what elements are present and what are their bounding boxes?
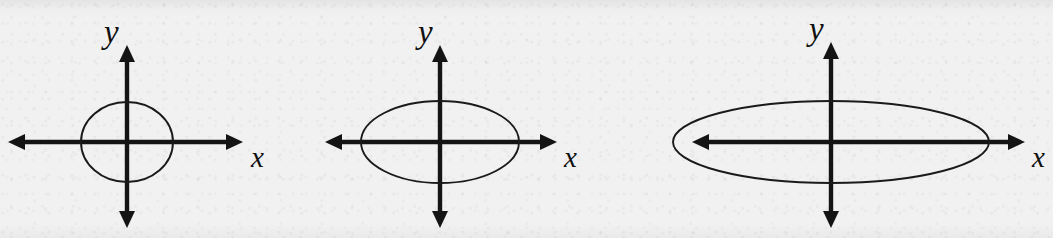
y-axis-bottom-arrowhead-1: [119, 211, 135, 228]
figure-2-canvas: [300, 0, 600, 238]
figure-1-canvas: [0, 0, 300, 238]
x-axis-right-arrowhead-2: [540, 134, 557, 150]
figure-3-canvas: [600, 0, 1053, 238]
y-axis-top-arrowhead-3: [823, 42, 839, 59]
x-axis-label-2: x: [564, 143, 577, 172]
y-axis-2: [432, 45, 448, 228]
y-axis-1: [119, 45, 135, 228]
x-axis-left-arrowhead-2: [325, 134, 342, 150]
x-axis-label-1: x: [251, 143, 264, 172]
y-axis-bottom-arrowhead-2: [432, 211, 448, 228]
y-axis-bottom-arrowhead-3: [823, 211, 839, 228]
y-axis-3: [823, 42, 839, 228]
ellipse-diagram-1: y x: [0, 0, 300, 238]
x-axis-right-arrowhead-3: [1008, 134, 1025, 150]
y-axis-top-arrowhead-2: [432, 45, 448, 62]
ellipse-diagram-3: y x: [600, 0, 1053, 238]
figure-page: y x y x: [0, 0, 1053, 238]
x-axis-left-arrowhead-3: [692, 134, 709, 150]
y-axis-label-3: y: [809, 13, 824, 46]
x-axis-label-3: x: [1032, 143, 1045, 172]
y-axis-label-1: y: [104, 16, 119, 49]
x-axis-right-arrowhead-1: [226, 134, 243, 150]
x-axis-3: [692, 134, 1025, 150]
y-axis-label-2: y: [418, 16, 433, 49]
x-axis-left-arrowhead-1: [8, 134, 25, 150]
ellipse-diagram-2: y x: [300, 0, 600, 238]
y-axis-top-arrowhead-1: [119, 45, 135, 62]
